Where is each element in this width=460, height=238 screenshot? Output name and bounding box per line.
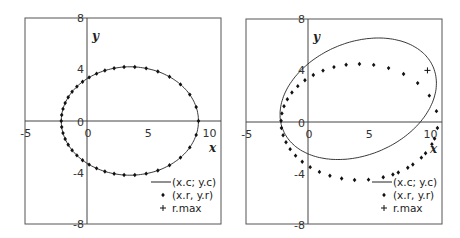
data-point xyxy=(353,178,357,182)
legend-diamond-icon xyxy=(161,193,165,197)
data-point xyxy=(133,173,137,177)
data-point xyxy=(321,68,325,72)
x-tick-label: -5 xyxy=(20,127,31,140)
legend: (x.c; y.c)(x.r, y.r)r.max xyxy=(151,176,216,214)
y-tick-label: -8 xyxy=(294,219,305,232)
legend-label: (x.c; y.c) xyxy=(172,176,216,188)
x-tick-label: 10 xyxy=(203,127,217,140)
data-point xyxy=(308,165,312,169)
legend-plus-icon xyxy=(381,205,387,211)
data-point xyxy=(381,175,385,179)
legend-label: (x.c; y.c) xyxy=(393,176,437,188)
data-point xyxy=(112,66,116,70)
data-point xyxy=(288,147,292,151)
data-point xyxy=(284,140,288,144)
chart-1: -50510840-4-8yx(x.c; y.c)(x.r, y.r)r.max xyxy=(20,12,221,231)
data-point xyxy=(286,97,290,101)
y-tick-label: -4 xyxy=(73,167,84,180)
x-tick-label: 5 xyxy=(145,127,152,140)
data-point xyxy=(282,104,286,108)
data-point xyxy=(103,68,107,72)
data-point xyxy=(59,119,63,123)
legend-diamond-icon xyxy=(382,193,386,197)
data-point xyxy=(144,171,148,175)
data-point xyxy=(358,62,362,66)
y-tick-label: 4 xyxy=(298,64,305,77)
legend-plus-icon xyxy=(160,205,166,211)
data-point xyxy=(63,101,67,105)
x-tick-label: -5 xyxy=(241,128,252,141)
y-tick-label: 8 xyxy=(298,13,305,26)
chart-2: -50510840-4-8yx(x.c; y.c)(x.r, y.r)r.max xyxy=(241,13,442,232)
data-point xyxy=(318,170,322,174)
data-point xyxy=(144,66,148,70)
data-point xyxy=(95,166,99,170)
data-point xyxy=(303,78,307,82)
data-point xyxy=(168,163,172,167)
y-axis-label: y xyxy=(91,29,100,43)
data-point xyxy=(344,63,348,67)
data-point xyxy=(112,172,116,176)
data-point xyxy=(122,65,126,69)
data-point xyxy=(424,151,428,155)
legend-label: (x.r, y.r) xyxy=(393,189,434,201)
y-tick-label: 0 xyxy=(298,117,305,130)
data-point xyxy=(416,81,420,85)
legend-label: r.max xyxy=(393,202,423,214)
data-point xyxy=(103,169,107,173)
data-point xyxy=(156,69,160,73)
legend-label: r.max xyxy=(172,202,202,214)
data-point xyxy=(122,173,126,177)
data-point xyxy=(63,137,67,141)
data-point xyxy=(435,109,439,113)
data-point xyxy=(60,125,64,129)
data-point xyxy=(95,71,99,75)
data-point xyxy=(367,177,371,181)
data-point xyxy=(156,168,160,172)
orbit-curve xyxy=(280,38,436,160)
x-tick-label: 5 xyxy=(366,128,373,141)
data-point xyxy=(406,166,410,170)
x-axis-label: x xyxy=(208,141,217,155)
data-point xyxy=(194,105,198,109)
data-point xyxy=(402,72,406,76)
rmax-marker xyxy=(424,67,430,73)
data-point xyxy=(332,65,336,69)
y-axis-label: y xyxy=(312,30,321,44)
data-point xyxy=(290,90,294,94)
data-point xyxy=(312,73,316,77)
data-point xyxy=(294,153,298,157)
legend: (x.c; y.c)(x.r, y.r)r.max xyxy=(372,176,437,214)
data-point xyxy=(340,176,344,180)
data-point xyxy=(61,131,65,135)
data-point xyxy=(60,113,64,117)
data-point xyxy=(428,93,432,97)
data-point xyxy=(387,66,391,70)
data-point xyxy=(133,65,137,69)
y-tick-label: -8 xyxy=(73,218,84,231)
y-tick-label: 0 xyxy=(77,116,84,129)
data-point xyxy=(87,162,91,166)
data-point xyxy=(197,119,201,123)
y-tick-label: 8 xyxy=(77,12,84,25)
data-point xyxy=(396,170,400,174)
data-point xyxy=(168,75,172,79)
charts-canvas: -50510840-4-8yx(x.c; y.c)(x.r, y.r)r.max… xyxy=(0,0,460,238)
y-tick-label: 4 xyxy=(77,63,84,76)
data-point xyxy=(300,159,304,163)
data-point xyxy=(411,162,415,166)
data-point xyxy=(372,63,376,67)
data-point xyxy=(420,155,424,159)
data-point xyxy=(296,84,300,88)
data-point xyxy=(328,174,332,178)
x-tick-label: 0 xyxy=(306,128,313,141)
x-tick-label: 0 xyxy=(85,127,92,140)
data-point xyxy=(61,107,65,111)
data-point xyxy=(194,133,198,137)
legend-label: (x.r, y.r) xyxy=(172,189,213,201)
data-point xyxy=(87,75,91,79)
y-tick-label: -4 xyxy=(294,168,305,181)
data-point xyxy=(280,111,284,115)
